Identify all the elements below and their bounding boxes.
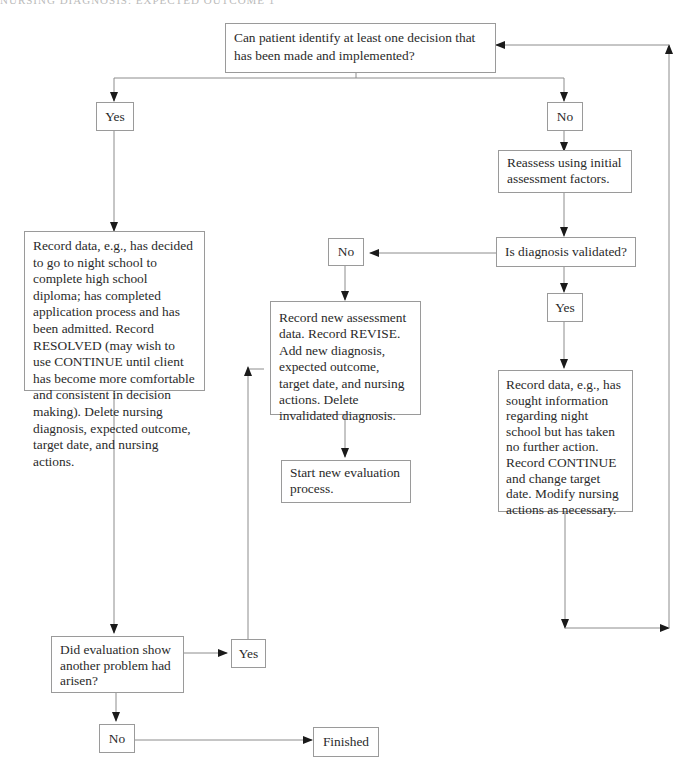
no-box-2: No xyxy=(328,238,364,266)
no-box-3: No xyxy=(99,724,135,753)
revise-record-box: Record new assessment data. Record REVIS… xyxy=(270,301,421,415)
start-question-box: Can patient identify at least one decisi… xyxy=(225,23,496,73)
validated-question-box: Is diagnosis validated? xyxy=(496,237,636,267)
yes-box-3: Yes xyxy=(231,639,266,668)
finished-box: Finished xyxy=(313,727,379,757)
start-new-evaluation-box: Start new evaluation process. xyxy=(281,460,411,503)
yes-box-2: Yes xyxy=(547,293,583,322)
no-box-1: No xyxy=(547,102,583,131)
another-problem-question-box: Did evaluation show another problem had … xyxy=(51,636,184,693)
yes-box-1: Yes xyxy=(96,102,134,131)
continue-record-box: Record data, e.g., has sought informatio… xyxy=(498,370,633,512)
resolved-record-box: Record data, e.g., has decided to go to … xyxy=(24,231,205,391)
reassess-box: Reassess using initial assessment factor… xyxy=(498,150,632,193)
